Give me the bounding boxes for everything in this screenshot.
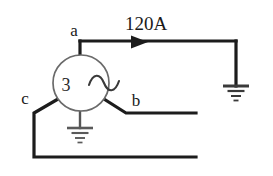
circuit-diagram: a b c 120A 3 xyxy=(0,0,273,176)
line-a-load-ground-symbol xyxy=(223,86,249,101)
terminal-label-b: b xyxy=(132,91,141,110)
generator-neutral-ground-symbol xyxy=(67,128,93,143)
phase-count-label: 3 xyxy=(62,75,71,95)
terminal-label-c: c xyxy=(21,89,29,108)
current-direction-arrow xyxy=(131,36,148,49)
arrowhead-right-icon xyxy=(131,36,148,49)
wire-phase-b xyxy=(104,99,196,113)
circuit-schematic-canvas: a b c 120A 3 xyxy=(0,0,273,176)
terminal-label-a: a xyxy=(70,21,78,40)
current-label: 120A xyxy=(125,13,168,34)
